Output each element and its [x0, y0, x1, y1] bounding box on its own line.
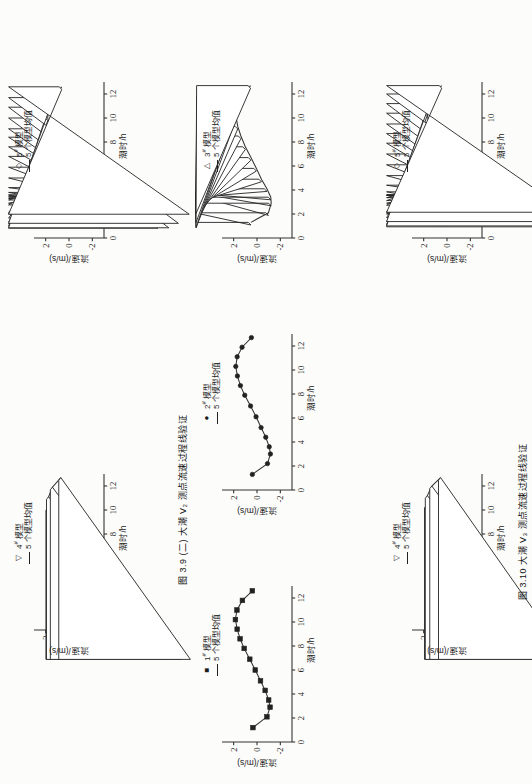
- svg-text:2: 2: [419, 244, 429, 248]
- legend-label-mean: 5 个模型均值: [23, 110, 35, 157]
- svg-text:6: 6: [296, 164, 306, 168]
- svg-text:潮时/h: 潮时/h: [306, 637, 316, 662]
- svg-text:4: 4: [296, 691, 306, 696]
- open-triangle-up-icon: △: [201, 160, 213, 172]
- line-key-icon: [217, 664, 218, 676]
- svg-text:12: 12: [108, 90, 118, 99]
- svg-text:8: 8: [296, 644, 306, 648]
- svg-text:-2: -2: [87, 244, 97, 251]
- svg-text:-2: -2: [465, 244, 475, 251]
- svg-text:流速/(m/s): 流速/(m/s): [49, 646, 89, 656]
- svg-text:8: 8: [108, 532, 118, 536]
- legend-item-mean: 5 个模型均值: [212, 110, 222, 172]
- svg-text:8: 8: [296, 140, 306, 144]
- svg-text:0: 0: [252, 748, 262, 752]
- scanned-page: 024681012-202潮时/h流速/(m/s) ◇ 5# 模型 5 个模型均…: [0, 0, 532, 784]
- svg-text:2: 2: [41, 244, 51, 248]
- chart-legend: ■ 1# 模型 5 个模型均值: [202, 614, 222, 676]
- svg-text:0: 0: [108, 236, 118, 240]
- line-key-icon: [407, 160, 408, 172]
- open-diamond-icon: ◇: [13, 160, 25, 172]
- svg-text:流速/(m/s): 流速/(m/s): [237, 254, 277, 264]
- svg-text:0: 0: [442, 244, 452, 248]
- chart-chart-5: 024681012-202潮时/h流速/(m/s) ◇ 5# 模型 5 个模型均…: [8, 72, 126, 268]
- svg-text:潮时/h: 潮时/h: [306, 133, 316, 158]
- chart-chart-2: 024681012-202潮时/h流速/(m/s) ● 2# 模型 5 个模型均…: [196, 324, 314, 520]
- svg-text:0: 0: [486, 236, 496, 240]
- open-diamond-icon: ◇: [391, 160, 403, 172]
- line-key-icon: [29, 552, 30, 564]
- chart-chart-1: 024681012-202潮时/h流速/(m/s) ■ 1# 模型 5 个模型均…: [196, 576, 314, 772]
- line-key-icon: [217, 160, 218, 172]
- chart-chart-4: 024681012-202潮时/h流速/(m/s) ▽ 4# 模型 5 个模型均…: [8, 464, 126, 660]
- svg-text:12: 12: [486, 90, 496, 99]
- svg-text:潮时/h: 潮时/h: [118, 133, 128, 158]
- svg-text:0: 0: [64, 244, 74, 248]
- svg-text:2: 2: [296, 464, 306, 468]
- svg-text:流速/(m/s): 流速/(m/s): [49, 254, 89, 264]
- svg-text:潮时/h: 潮时/h: [306, 385, 316, 410]
- svg-text:-2: -2: [275, 748, 285, 755]
- svg-text:10: 10: [486, 506, 496, 515]
- line-key-icon: [217, 412, 218, 424]
- chart-legend: △ 3# 模型 5 个模型均值: [202, 110, 222, 172]
- svg-text:2: 2: [296, 716, 306, 720]
- svg-text:0: 0: [296, 488, 306, 492]
- legend-label-mean: 5 个模型均值: [401, 110, 413, 157]
- legend-item-mean: 5 个模型均值: [212, 614, 222, 676]
- svg-text:12: 12: [486, 482, 496, 491]
- svg-text:8: 8: [296, 392, 306, 396]
- svg-text:-2: -2: [275, 496, 285, 503]
- chart-chart-3-10-5: 024681012-202潮时/h流速/(m/s) ◇ 5# 模型 5 个模型均…: [386, 72, 504, 268]
- svg-text:潮时/h: 潮时/h: [496, 525, 506, 550]
- svg-text:8: 8: [486, 532, 496, 536]
- chart-chart-3-10-4: 024681012-202潮时/h流速/(m/s) ▽ 4# 模型 5 个模型均…: [386, 464, 504, 660]
- legend-label-mean: 5 个模型均值: [211, 362, 223, 409]
- line-key-icon: [407, 552, 408, 564]
- svg-text:10: 10: [296, 366, 306, 375]
- svg-text:0: 0: [296, 740, 306, 744]
- chart-legend: ● 2# 模型 5 个模型均值: [202, 362, 222, 424]
- svg-text:12: 12: [296, 594, 306, 603]
- chart-legend: ◇ 5# 模型 5 个模型均值: [392, 110, 412, 172]
- svg-text:8: 8: [486, 140, 496, 144]
- legend-item-mean: 5 个模型均值: [24, 110, 34, 172]
- svg-text:10: 10: [486, 114, 496, 123]
- svg-text:12: 12: [108, 482, 118, 491]
- svg-text:-2: -2: [275, 244, 285, 251]
- legend-item-mean: 5 个模型均值: [402, 110, 412, 172]
- svg-text:潮时/h: 潮时/h: [118, 525, 128, 550]
- legend-label-mean: 5 个模型均值: [401, 502, 413, 549]
- chart-legend: ▽ 4# 模型 5 个模型均值: [392, 502, 412, 564]
- open-triangle-down-icon: ▽: [391, 552, 403, 564]
- svg-text:2: 2: [229, 244, 239, 248]
- svg-text:10: 10: [108, 114, 118, 123]
- svg-text:12: 12: [296, 342, 306, 351]
- svg-text:流速/(m/s): 流速/(m/s): [237, 506, 277, 516]
- svg-text:8: 8: [108, 140, 118, 144]
- svg-text:6: 6: [296, 416, 306, 420]
- svg-text:10: 10: [108, 506, 118, 515]
- line-key-icon: [29, 160, 30, 172]
- svg-text:流速/(m/s): 流速/(m/s): [427, 254, 467, 264]
- svg-text:0: 0: [296, 236, 306, 240]
- svg-text:潮时/h: 潮时/h: [496, 133, 506, 158]
- svg-text:12: 12: [296, 90, 306, 99]
- legend-item-mean: 5 个模型均值: [212, 362, 222, 424]
- legend-label-mean: 5 个模型均值: [211, 614, 223, 661]
- filled-square-icon: ■: [201, 664, 213, 676]
- legend-label-mean: 5 个模型均值: [23, 502, 35, 549]
- figure-caption-fig-3-9: 图 3.9 (二) 大潮 V₂ 测点流速过程线验证: [176, 415, 189, 585]
- svg-text:流速/(m/s): 流速/(m/s): [427, 646, 467, 656]
- svg-text:2: 2: [229, 496, 239, 500]
- svg-text:流速/(m/s): 流速/(m/s): [237, 758, 277, 768]
- svg-text:0: 0: [252, 244, 262, 248]
- legend-label-mean: 5 个模型均值: [211, 110, 223, 157]
- svg-text:6: 6: [296, 668, 306, 672]
- figure-caption-fig-3-10: 图 3.10 大潮 V₃ 测点流速过程线验证: [516, 444, 529, 600]
- svg-text:0: 0: [252, 496, 262, 500]
- svg-text:10: 10: [296, 114, 306, 123]
- legend-item-mean: 5 个模型均值: [24, 502, 34, 564]
- svg-text:4: 4: [296, 187, 306, 192]
- chart-legend: ▽ 4# 模型 5 个模型均值: [14, 502, 34, 564]
